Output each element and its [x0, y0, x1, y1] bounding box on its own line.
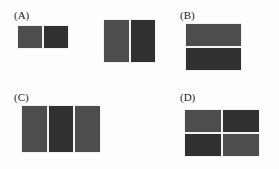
figure-c-cell-3: [75, 106, 100, 152]
figure-b-square-two-part: [185, 23, 242, 71]
figure-d-cell-4: [223, 134, 259, 156]
diagram-canvas: (A) (B) (C) (D): [0, 0, 279, 169]
figure-d-cell-3: [185, 134, 221, 156]
option-label-c: (C): [14, 91, 29, 103]
figure-a-small-two-part-rectangle: [17, 25, 69, 49]
figure-d-rectangle-four-part-grid: [184, 109, 260, 157]
option-label-a: (A): [14, 9, 29, 21]
figure-c-cell-1: [22, 106, 47, 152]
option-label-b: (B): [180, 9, 195, 21]
figure-d-cell-1: [185, 110, 221, 132]
figure-d-cell-2: [223, 110, 259, 132]
figure-a1-cell-2: [44, 26, 68, 48]
figure-c-cell-2: [49, 106, 74, 152]
figure-b-cell-1: [186, 24, 241, 46]
figure-b-cell-2: [186, 48, 241, 70]
figure-a2-cell-1: [104, 20, 129, 62]
option-label-d: (D): [180, 91, 195, 103]
figure-c-rectangle-three-part: [21, 105, 101, 153]
figure-a-large-two-part-rectangle: [103, 19, 156, 63]
figure-a2-cell-2: [131, 20, 156, 62]
figure-a1-cell-1: [18, 26, 42, 48]
